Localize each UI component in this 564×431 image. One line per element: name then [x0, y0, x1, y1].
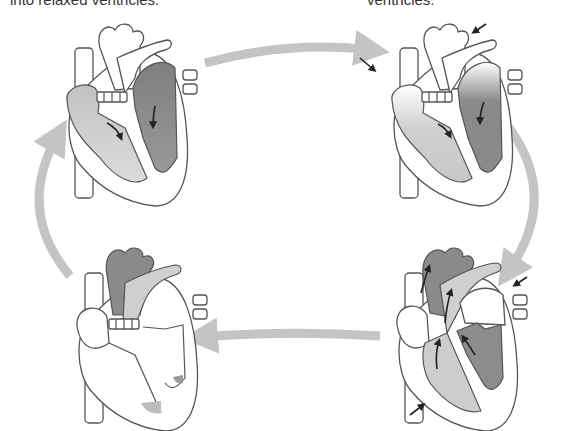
pressure-arrow: [515, 277, 527, 285]
heart-top-right: [360, 24, 522, 206]
cycle-arrow-left: [39, 135, 70, 276]
pressure-arrow: [360, 58, 374, 70]
cycle-arrow-bottom: [200, 333, 380, 337]
cardiac-cycle-diagram: [0, 0, 564, 431]
heart-bottom-right: [397, 248, 527, 431]
heart-top-left: [67, 24, 197, 206]
cycle-arrow-top: [205, 47, 372, 63]
pressure-arrow: [474, 24, 486, 32]
heart-bottom-left: [77, 248, 207, 431]
